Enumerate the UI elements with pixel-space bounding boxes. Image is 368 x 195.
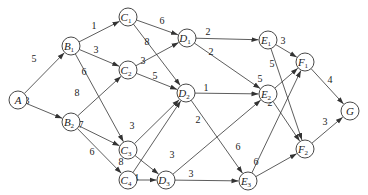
edge-weight-label: 5 [258,73,263,84]
edge-c3-d3 [135,156,158,175]
nodes-layer: AB1B2C1C2C3C4D1D2D3E1E2E3F1F2G [9,8,359,190]
node-e1: E1 [259,31,277,49]
node-e2: E2 [259,85,277,103]
edge-weight-label: 3 [141,55,146,66]
node-b2: B2 [62,113,80,131]
node-d3: D3 [157,171,175,189]
node-label: G [346,105,354,117]
edge-weight-label: 6 [254,156,259,167]
edge-weight-label: 6 [160,15,165,26]
edge-weight-label: 5 [153,70,158,81]
edge-weight-label: 3 [94,44,99,55]
edge-weight-label: 3 [323,116,328,127]
node-d1: D1 [178,29,196,47]
node-f1: F1 [296,53,314,71]
node-label: A [14,94,22,106]
edge-a-b1 [24,53,64,94]
edge-d2-e2 [195,93,259,94]
edge-d1-e1 [196,38,259,40]
edge-a-b2 [26,103,62,118]
node-g: G [341,102,359,120]
edge-c1-d1 [136,20,178,35]
edge-b2-c2 [78,76,121,116]
edge-e3-f2 [256,154,297,177]
node-d2: D2 [177,84,195,102]
edge-weight-label: 2 [206,26,211,37]
edge-weight-label: 5 [32,53,37,64]
node-c1: C1 [119,8,137,26]
edge-weight-label: 1 [92,20,97,31]
edge-weight-label: 3 [281,35,286,46]
edge-d3-e3 [175,180,239,181]
edge-weight-label: 8 [145,36,150,47]
edge-e3-f1 [252,71,301,173]
node-c4: C4 [119,171,137,189]
edge-weight-label: 5 [270,58,275,69]
edge-weight-label: 6 [82,66,87,77]
edge-b2-c4 [77,128,121,173]
node-e3: E3 [239,172,257,190]
edge-weight-label: 3 [189,168,194,179]
edge-weight-label: 6 [236,141,241,152]
edge-d3-e2 [173,100,261,174]
node-c3: C3 [119,141,137,159]
edge-weight-label: 2 [196,114,201,125]
graph-diagram: 531368766835338422123335526643 AB1B2C1C2… [0,0,368,195]
edge-weight-label: 6 [90,146,95,157]
edge-weight-label: 2 [209,46,214,57]
edge-b1-c1 [79,21,120,42]
edge-weight-label: 8 [75,87,80,98]
edge-b1-c2 [79,49,119,66]
node-f2: F2 [296,140,314,158]
edge-c4-d2 [133,101,181,173]
edge-weight-label: 3 [130,120,135,131]
node-b1: B1 [62,37,80,55]
edge-weight-label: 4 [328,74,333,85]
edge-e1-f1 [276,45,297,58]
edge-weight-label: 1 [204,82,209,93]
node-a: A [9,91,27,109]
edge-weight-label: 3 [170,149,175,160]
node-c2: C2 [119,61,137,79]
